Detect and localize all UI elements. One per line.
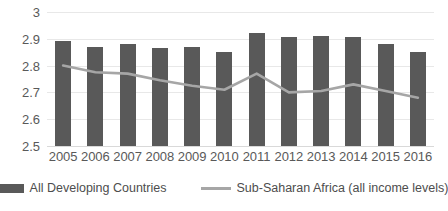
x-axis-tick-label: 2016: [403, 150, 432, 163]
line-path: [63, 66, 418, 98]
y-axis-tick-label: 2.9: [22, 32, 40, 45]
x-axis-tick-label: 2010: [210, 150, 239, 163]
x-axis-tick-label: 2006: [81, 150, 110, 163]
x-axis-tick-label: 2009: [178, 150, 207, 163]
y-axis-tick-label: 3: [33, 6, 40, 19]
gridline: [47, 146, 434, 147]
x-axis-tick-label: 2015: [371, 150, 400, 163]
y-axis-tick-label: 2.7: [22, 86, 40, 99]
legend-entry[interactable]: Sub-Saharan Africa (all income levels): [201, 182, 448, 195]
legend-bar-swatch-icon: [0, 184, 24, 193]
legend-label: Sub-Saharan Africa (all income levels): [237, 182, 448, 195]
x-axis-tick-label: 2013: [307, 150, 336, 163]
y-axis-tick-label: 2.8: [22, 59, 40, 72]
y-axis-tick-label: 2.6: [22, 113, 40, 126]
x-axis-tick-label: 2011: [243, 150, 271, 163]
legend-label: All Developing Countries: [30, 182, 167, 195]
x-axis-tick-label: 2007: [113, 150, 142, 163]
x-axis-tick-label: 2014: [339, 150, 368, 163]
x-axis-tick-label: 2008: [145, 150, 174, 163]
x-axis: 2005200620072008200920102011201220132014…: [47, 148, 434, 170]
x-axis-tick-label: 2005: [49, 150, 78, 163]
plot-area: [47, 12, 434, 146]
legend-line-swatch-icon: [201, 187, 231, 190]
x-axis-tick-label: 2012: [274, 150, 303, 163]
chart-legend: All Developing CountriesSub-Saharan Afri…: [0, 176, 444, 200]
line-series-sub-saharan-africa: [47, 12, 434, 146]
y-axis: 32.92.82.72.62.5: [0, 0, 47, 160]
legend-entry[interactable]: All Developing Countries: [0, 182, 167, 195]
y-axis-tick-label: 2.5: [22, 140, 40, 153]
